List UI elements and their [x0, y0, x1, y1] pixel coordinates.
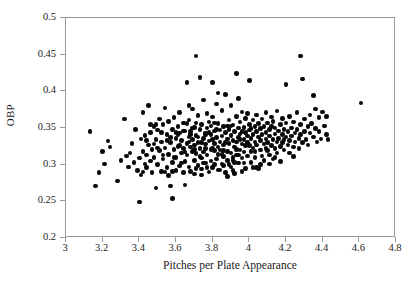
scatter-point [192, 172, 197, 177]
scatter-point [199, 140, 204, 145]
scatter-point [243, 116, 248, 121]
scatter-point [231, 168, 236, 173]
scatter-point [161, 157, 166, 162]
scatter-point [181, 129, 186, 134]
scatter-point [185, 80, 190, 85]
scatter-point [181, 170, 186, 175]
scatter-point [359, 101, 364, 106]
scatter-point [214, 127, 219, 132]
scatter-point [317, 115, 322, 120]
scatter-point [135, 168, 140, 173]
scatter-point [166, 119, 171, 124]
scatter-point [322, 124, 327, 129]
scatter-point [196, 113, 201, 118]
scatter-point [236, 153, 241, 158]
scatter-point [100, 149, 105, 154]
scatter-point [319, 137, 324, 142]
scatter-point [187, 140, 192, 145]
scatter-point [254, 165, 259, 170]
scatter-point [302, 129, 307, 134]
scatter-point [240, 169, 245, 174]
plot-area-frame [65, 17, 395, 237]
scatter-point [198, 127, 203, 132]
scatter-point [225, 174, 230, 179]
scatter-point [242, 161, 247, 166]
scatter-point [166, 152, 171, 157]
y-axis-tick [60, 54, 65, 55]
scatter-point [128, 151, 133, 156]
x-axis-tick-label: 4.8 [388, 243, 401, 254]
scatter-point [297, 146, 302, 151]
y-axis-tick [60, 127, 65, 128]
y-axis-tick [60, 200, 65, 201]
x-axis-tick-label: 3 [62, 243, 67, 254]
scatter-point [177, 143, 182, 148]
scatter-point [199, 173, 204, 178]
scatter-point [144, 138, 149, 143]
scatter-point [282, 148, 287, 153]
scatter-point [223, 140, 228, 145]
scatter-point [253, 149, 258, 154]
scatter-point [306, 143, 311, 148]
scatter-point [144, 153, 149, 158]
scatter-point [155, 146, 160, 151]
scatter-point [183, 183, 188, 188]
y-axis-tick-label: 0.5 [43, 12, 56, 23]
scatter-point [287, 138, 292, 143]
x-axis-tick-label: 4.2 [278, 243, 291, 254]
scatter-point [302, 117, 307, 122]
scatter-point [210, 115, 215, 120]
scatter-point [137, 200, 142, 205]
scatter-point [273, 155, 278, 160]
scatter-point [220, 152, 225, 157]
scatter-point [284, 82, 289, 87]
scatter-point [133, 127, 138, 132]
scatter-point [210, 146, 215, 151]
scatter-point [126, 165, 131, 170]
scatter-point [298, 54, 303, 59]
scatter-point [214, 157, 219, 162]
scatter-point [251, 118, 256, 123]
scatter-point [256, 121, 261, 126]
scatter-point [295, 127, 300, 132]
scatter-point [234, 71, 239, 76]
scatter-point [179, 161, 184, 166]
y-axis-tick-label: 0.3 [43, 159, 56, 170]
scatter-point [291, 145, 296, 150]
scatter-point [258, 148, 263, 153]
scatter-point [236, 96, 241, 101]
scatter-point [271, 119, 276, 124]
scatter-point [300, 77, 305, 82]
scatter-point [287, 114, 292, 119]
scatter-point [201, 98, 206, 103]
scatter-point [179, 138, 184, 143]
scatter-point [214, 102, 219, 107]
scatter-point [243, 166, 248, 171]
y-axis-tick-label: 0.45 [38, 49, 56, 60]
y-axis-tick-label: 0.2 [43, 232, 56, 243]
scatter-point [170, 169, 175, 174]
scatter-point [115, 179, 120, 184]
scatter-point [190, 107, 195, 112]
scatter-point [240, 156, 245, 161]
scatter-point [221, 163, 226, 168]
scatter-point [148, 130, 153, 135]
scatter-point [203, 146, 208, 151]
scatter-point [172, 115, 177, 120]
y-axis-tick [60, 17, 65, 18]
scatter-point [122, 117, 127, 122]
y-axis-tick [60, 90, 65, 91]
scatter-point [203, 132, 208, 137]
scatter-point [170, 196, 175, 201]
scatter-point [141, 170, 146, 175]
scatter-point [284, 121, 289, 126]
x-axis-tick-label: 3.4 [132, 243, 145, 254]
scatter-point [223, 92, 228, 97]
scatter-point [249, 160, 254, 165]
y-axis-tick [60, 164, 65, 165]
scatter-point [188, 132, 193, 137]
scatter-point [170, 160, 175, 165]
scatter-point [155, 162, 160, 167]
scatter-point [192, 147, 197, 152]
scatter-point [216, 91, 221, 96]
